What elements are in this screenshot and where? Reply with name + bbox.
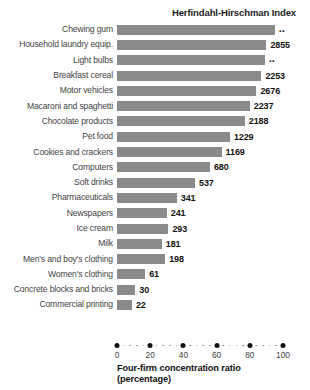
bar-track: 181 — [117, 236, 310, 251]
bar-row: Light bulbs.. — [0, 53, 310, 68]
x-axis: 020406080100 Four-firm concentration rat… — [117, 342, 297, 388]
axis-tick-label: 20 — [146, 350, 155, 360]
bar-value-label: 341 — [181, 193, 196, 203]
bar-category-label: Concrete blocks and bricks — [0, 285, 117, 294]
bar-track: 241 — [117, 206, 310, 221]
bar — [117, 147, 222, 157]
x-axis-title-line1: Four-firm concentration ratio — [117, 363, 241, 373]
bar-category-label: Commercial printing — [0, 300, 117, 309]
axis-tick-dot — [181, 343, 186, 348]
axis-minor-dot — [229, 345, 231, 347]
bar-track: 2237 — [117, 98, 310, 113]
bar-row: Chewing gum.. — [0, 22, 310, 37]
bar — [117, 269, 145, 279]
bar-track: 1229 — [117, 129, 310, 144]
bar-value-label: 61 — [149, 269, 159, 279]
bar — [117, 239, 162, 249]
bar-track: 22 — [117, 297, 310, 312]
axis-minor-dot — [189, 345, 191, 347]
bar-track: 2253 — [117, 68, 310, 83]
bar-row: Macaroni and spaghetti2237 — [0, 98, 310, 113]
bar-category-label: Household laundry equip. — [0, 40, 117, 49]
x-axis-dots: 020406080100 — [117, 342, 289, 350]
axis-tick-label: 100 — [276, 350, 290, 360]
bar-category-label: Motor vehicles — [0, 86, 117, 95]
bar-category-label: Computers — [0, 163, 117, 172]
bar-category-label: Light bulbs — [0, 56, 117, 65]
axis-minor-dot — [269, 345, 271, 347]
axis-minor-dot — [196, 345, 198, 347]
bar-value-label: 537 — [199, 178, 214, 188]
axis-minor-dot — [136, 345, 138, 347]
bar-category-label: Women's clothing — [0, 270, 117, 279]
bar-track: 1169 — [117, 144, 310, 159]
bar-track: .. — [117, 53, 310, 68]
bar-value-label: 2855 — [270, 40, 290, 50]
axis-tick-label: 80 — [245, 350, 254, 360]
bar-value-label: 181 — [166, 239, 181, 249]
axis-minor-dot — [129, 345, 131, 347]
bar — [117, 162, 210, 172]
axis-tick-dot — [115, 343, 120, 348]
axis-minor-dot — [209, 345, 211, 347]
bar-category-label: Cookies and crackers — [0, 148, 117, 157]
bar-track: 61 — [117, 267, 310, 282]
bar-category-label: Newspapers — [0, 209, 117, 218]
bar — [117, 254, 165, 264]
bar — [117, 25, 275, 35]
bar-value-label: .. — [269, 52, 275, 64]
bar-value-label: 22 — [136, 300, 146, 310]
axis-minor-dot — [236, 345, 238, 347]
bar-category-label: Macaroni and spaghetti — [0, 102, 117, 111]
bar-value-label: 2253 — [265, 71, 285, 81]
bar — [117, 178, 195, 188]
bar — [117, 208, 167, 218]
bar-track: 2188 — [117, 114, 310, 129]
bar-row: Chocolate products2188 — [0, 114, 310, 129]
axis-minor-dot — [176, 345, 178, 347]
bar-value-label: 293 — [172, 224, 187, 234]
bar-row: Men's and boy's clothing198 — [0, 251, 310, 266]
bar-row: Commercial printing22 — [0, 297, 310, 312]
bar-value-label: 198 — [169, 254, 184, 264]
bar — [117, 300, 132, 310]
bar-category-label: Pet food — [0, 132, 117, 141]
bar-track: 341 — [117, 190, 310, 205]
bar-category-label: Men's and boy's clothing — [0, 255, 117, 264]
bar — [117, 55, 265, 65]
axis-minor-dot — [123, 345, 125, 347]
axis-tick-label: 40 — [179, 350, 188, 360]
bar-category-label: Ice cream — [0, 224, 117, 233]
bar-row: Computers680 — [0, 160, 310, 175]
axis-tick-dot — [214, 343, 219, 348]
bar-value-label: 680 — [214, 162, 229, 172]
bar — [117, 101, 250, 111]
bar — [117, 116, 245, 126]
bar — [117, 285, 135, 295]
axis-minor-dot — [143, 345, 145, 347]
bar-value-label: 2188 — [249, 116, 269, 126]
bar — [117, 71, 261, 81]
bar-category-label: Pharmaceuticals — [0, 193, 117, 202]
bar-row: Pharmaceuticals341 — [0, 190, 310, 205]
axis-tick-dot — [148, 343, 153, 348]
axis-tick-label: 0 — [115, 350, 120, 360]
bar-row: Ice cream293 — [0, 221, 310, 236]
chart-container: Herfindahl-Hirschman Index Chewing gum..… — [0, 0, 310, 390]
axis-minor-dot — [262, 345, 264, 347]
x-axis-title: Four-firm concentration ratio (percentag… — [117, 363, 241, 384]
axis-minor-dot — [242, 345, 244, 347]
axis-minor-dot — [169, 345, 171, 347]
bar-category-label: Soft drinks — [0, 178, 117, 187]
bar-value-label: 30 — [139, 285, 149, 295]
bar-rows: Chewing gum..Household laundry equip.285… — [0, 22, 310, 313]
axis-minor-dot — [276, 345, 278, 347]
axis-minor-dot — [156, 345, 158, 347]
bar-row: Pet food1229 — [0, 129, 310, 144]
bar-row: Concrete blocks and bricks30 — [0, 282, 310, 297]
bar-track: 2855 — [117, 37, 310, 52]
bar-value-label: .. — [279, 22, 285, 34]
bar-value-label: 241 — [171, 208, 186, 218]
bar — [117, 224, 168, 234]
bar — [117, 40, 266, 50]
